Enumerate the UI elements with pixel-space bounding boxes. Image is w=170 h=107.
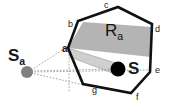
edge-label-f: f bbox=[136, 93, 139, 102]
edge-label-e: e bbox=[155, 66, 160, 75]
region-letter: R bbox=[105, 21, 117, 40]
external-point-label: Sa bbox=[8, 47, 25, 67]
source-point-dot bbox=[21, 66, 33, 78]
diagram-canvas: Sa S Ra a b c d e f g bbox=[0, 0, 170, 107]
edge-label-b: b bbox=[68, 20, 73, 29]
edge-label-c: c bbox=[104, 1, 109, 10]
vertex-label-a: a bbox=[62, 44, 68, 54]
target-point-dot bbox=[111, 62, 126, 77]
internal-point-label: S bbox=[128, 60, 139, 77]
external-point-letter: S bbox=[8, 46, 19, 65]
edge-label-d: d bbox=[155, 25, 160, 34]
edge-label-g: g bbox=[92, 86, 97, 95]
sight-line-lower bbox=[31, 73, 84, 85]
external-point-subscript: a bbox=[19, 55, 25, 67]
geometry-diagram-svg bbox=[0, 0, 170, 107]
region-subscript: a bbox=[117, 30, 123, 42]
region-label: Ra bbox=[105, 22, 123, 42]
